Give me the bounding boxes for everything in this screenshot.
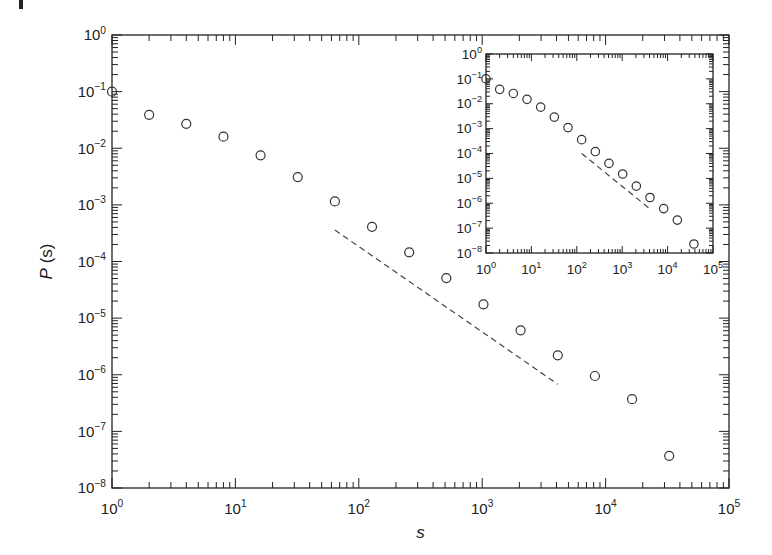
figure: 10010110210310410510010−110−210−310−410−… <box>0 0 772 555</box>
x-tick-labels: 100101102103104105 <box>101 498 741 517</box>
x-tick-label: 104 <box>594 498 617 517</box>
y-tick-label: 10−2 <box>78 138 107 157</box>
inset-plot: 10010110210310410510010−110−210−310−410−… <box>457 45 724 277</box>
y-tick-label: 10−3 <box>78 194 107 213</box>
x-tick-label: 103 <box>471 498 494 517</box>
y-tick-label: 10−1 <box>78 81 107 100</box>
y-axis-title: P (s) <box>37 244 56 280</box>
y-tick-label: 100 <box>84 25 107 44</box>
x-axis-title: s <box>416 523 425 542</box>
y-tick-labels: 10010−110−210−310−410−510−610−710−8 <box>457 45 483 261</box>
y-tick-label: 10−8 <box>78 478 107 497</box>
x-tick-label: 101 <box>224 498 247 517</box>
x-tick-label: 100 <box>101 498 124 517</box>
y-tick-label: 10−5 <box>78 308 107 327</box>
y-tick-label: 10−7 <box>78 421 107 440</box>
x-tick-label: 102 <box>348 498 371 517</box>
chart-canvas: 10010110210310410510010−110−210−310−410−… <box>0 0 772 555</box>
y-tick-labels: 10010−110−210−310−410−510−610−710−8 <box>78 25 107 497</box>
y-tick-label: 10−4 <box>78 251 107 270</box>
y-tick-label: 10−6 <box>78 364 107 383</box>
x-tick-label: 105 <box>718 498 741 517</box>
